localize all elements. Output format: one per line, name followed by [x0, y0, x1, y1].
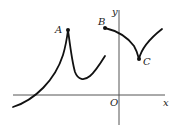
y-axis-label: y — [111, 6, 118, 17]
point-a — [66, 28, 70, 32]
point-c — [137, 57, 141, 61]
right-curve — [105, 28, 162, 59]
label-c: C — [143, 56, 151, 67]
label-a: A — [54, 24, 62, 35]
label-b: B — [97, 16, 105, 27]
x-axis-label: x — [163, 97, 169, 108]
origin-label: O — [110, 97, 118, 108]
function-graph: A B C O x y — [0, 0, 180, 129]
